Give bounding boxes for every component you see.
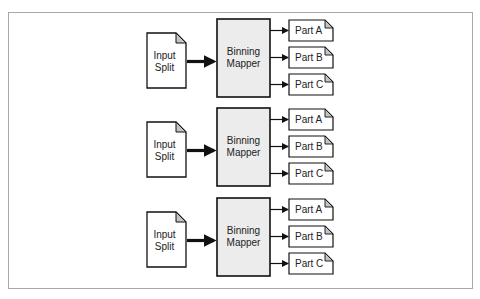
mapper-label-line2: Mapper [227,237,262,248]
input-split-label-line2: Split [155,241,175,252]
output-part-doc: Part A [289,199,333,220]
dog-ear-fold-icon [176,212,186,222]
pipeline-group-2: InputSplitBinningMapperPart APart BPart … [147,108,333,186]
dog-ear-fold-icon [176,33,186,43]
part-label: Part C [295,79,323,90]
output-part-doc: Part A [289,109,333,130]
part-label: Part B [295,231,323,242]
input-split-label-line2: Split [155,62,175,73]
dog-ear-fold-icon [325,226,333,234]
input-split-label-line2: Split [155,151,175,162]
output-part-doc: Part C [289,74,333,95]
part-label: Part C [295,168,323,179]
binning-mapper-box: BinningMapper [217,19,270,97]
part-label: Part A [295,204,323,215]
input-split-doc: InputSplit [147,122,186,177]
binning-mapper-box: BinningMapper [217,108,270,186]
output-part-doc: Part B [289,47,333,68]
dog-ear-fold-icon [176,122,186,132]
dog-ear-fold-icon [325,74,333,82]
mapper-label-line2: Mapper [227,58,262,69]
binning-mapper-box: BinningMapper [217,198,270,276]
input-split-doc: InputSplit [147,33,186,88]
pipeline-group-1: InputSplitBinningMapperPart APart BPart … [147,19,333,97]
input-split-doc: InputSplit [147,212,186,267]
dog-ear-fold-icon [325,20,333,28]
input-split-label-line1: Input [153,50,175,61]
output-part-doc: Part B [289,136,333,157]
output-part-doc: Part C [289,253,333,274]
mapper-label-line2: Mapper [227,147,262,158]
mapper-label-line1: Binning [227,225,260,236]
binning-mapper-diagram: InputSplitBinningMapperPart APart BPart … [0,0,480,299]
pipeline-group-3: InputSplitBinningMapperPart APart BPart … [147,198,333,276]
input-split-label-line1: Input [153,229,175,240]
part-label: Part A [295,114,323,125]
dog-ear-fold-icon [325,109,333,117]
part-label: Part C [295,258,323,269]
input-split-label-line1: Input [153,139,175,150]
output-part-doc: Part B [289,226,333,247]
part-label: Part A [295,25,323,36]
dog-ear-fold-icon [325,199,333,207]
mapper-label-line1: Binning [227,46,260,57]
output-part-doc: Part A [289,20,333,41]
output-part-doc: Part C [289,163,333,184]
mapper-label-line1: Binning [227,135,260,146]
part-label: Part B [295,52,323,63]
dog-ear-fold-icon [325,136,333,144]
dog-ear-fold-icon [325,47,333,55]
dog-ear-fold-icon [325,163,333,171]
dog-ear-fold-icon [325,253,333,261]
part-label: Part B [295,141,323,152]
